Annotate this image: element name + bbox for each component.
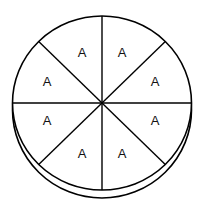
sector-label: A bbox=[43, 113, 52, 128]
sector-label: A bbox=[78, 45, 87, 60]
sector-label: A bbox=[118, 146, 127, 161]
divided-circle-diagram: A A A A A A A A bbox=[0, 0, 204, 209]
sector-label: A bbox=[151, 74, 160, 89]
sector-label: A bbox=[43, 74, 52, 89]
sector-label: A bbox=[78, 146, 87, 161]
sector-label: A bbox=[118, 45, 127, 60]
sector-label: A bbox=[151, 113, 160, 128]
